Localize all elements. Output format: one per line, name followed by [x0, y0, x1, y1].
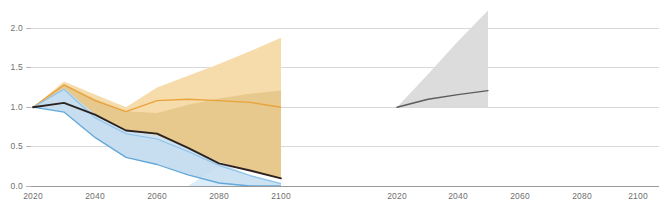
left-x-tick-label-2060: 2060 — [137, 192, 177, 201]
right-chart-plot — [330, 0, 659, 211]
right-x-tick-label-2060: 2060 — [500, 192, 540, 201]
right-x-tick-label-2040: 2040 — [438, 192, 478, 201]
y-tick-label-1-0: 1.0 — [1, 103, 23, 112]
left-x-tick-label-2020: 2020 — [13, 192, 53, 201]
y-tick-label-0-0: 0.0 — [1, 182, 23, 191]
left-x-tick-label-2040: 2040 — [75, 192, 115, 201]
left-chart-panel: 2.0 1.5 1.0 0.5 0.0 2020 2040 2060 2080 … — [0, 0, 330, 211]
y-tick-label-1-5: 1.5 — [1, 63, 23, 72]
left-x-tick-label-2100: 2100 — [261, 192, 301, 201]
left-x-tick-label-2080: 2080 — [199, 192, 239, 201]
right-x-tick-label-2100: 2100 — [618, 192, 658, 201]
y-tick-label-2-0: 2.0 — [1, 24, 23, 33]
left-y-tick-marks — [26, 29, 31, 187]
right-x-tick-label-2020: 2020 — [377, 192, 417, 201]
y-tick-label-0-5: 0.5 — [1, 142, 23, 151]
right-chart-panel: 2020 2040 2060 2080 2100 — [330, 0, 659, 211]
scenario-projection-figure: 2.0 1.5 1.0 0.5 0.0 2020 2040 2060 2080 … — [0, 0, 659, 211]
right-gridlines — [330, 29, 659, 147]
left-chart-plot — [0, 0, 330, 211]
right-x-tick-label-2080: 2080 — [562, 192, 602, 201]
